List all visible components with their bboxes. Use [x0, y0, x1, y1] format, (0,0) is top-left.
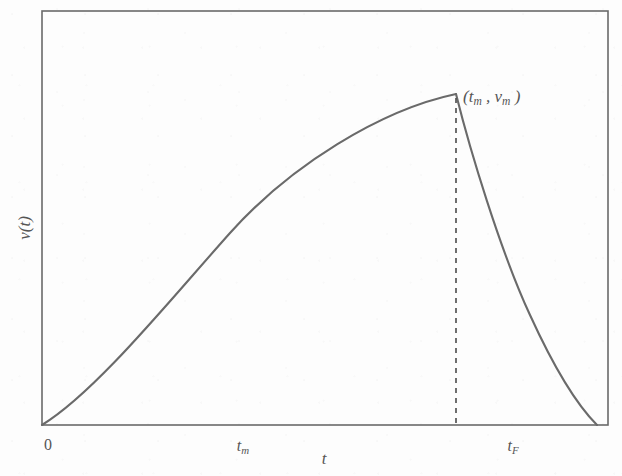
y-axis-title-t: t — [15, 222, 34, 227]
plot-frame — [42, 11, 608, 425]
y-axis-title-v: v — [15, 232, 34, 240]
figure-container: v(t) t 0 tm tF (tm , vm ) — [0, 0, 622, 476]
velocity-curve-falling — [456, 94, 597, 425]
y-axis-title-paren-close: ) — [15, 216, 34, 222]
x-tick-tm-subscript: m — [241, 444, 249, 456]
y-axis-title-paren-open: ( — [15, 227, 34, 233]
x-axis-title: t — [322, 450, 327, 467]
x-tick-tf-subscript: F — [512, 444, 519, 456]
x-tick-label-zero: 0 — [44, 437, 52, 453]
peak-t-subscript: m — [473, 95, 481, 108]
velocity-curve-rising — [42, 94, 456, 425]
x-tick-label-tf: tF — [507, 438, 518, 456]
y-axis-title: v(t) — [16, 216, 33, 240]
velocity-time-plot — [0, 0, 622, 476]
peak-v-base: v — [495, 87, 503, 106]
peak-comma: , — [482, 87, 495, 106]
peak-point-annotation: (tm , vm ) — [463, 88, 520, 108]
peak-paren-close: ) — [510, 87, 520, 106]
x-tick-label-tm: tm — [237, 438, 249, 456]
